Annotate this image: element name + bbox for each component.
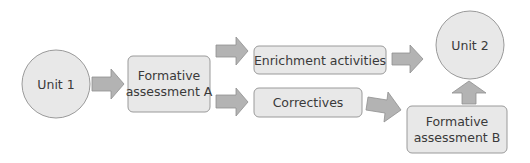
arrow-right-icon — [216, 88, 248, 116]
node-enrichment-activities: Enrichment activities — [254, 46, 386, 74]
node-correctives: Correctives — [254, 88, 362, 117]
arrow-diagonal-icon — [366, 92, 401, 122]
formative-b-line1: Formative — [426, 114, 489, 129]
unit-1-label: Unit 1 — [37, 77, 74, 92]
node-unit-1: Unit 1 — [22, 50, 90, 118]
arrow-right-icon — [216, 37, 248, 65]
node-unit-2: Unit 2 — [436, 11, 504, 79]
arrow-up-icon — [452, 81, 486, 104]
mastery-learning-diagram: Unit 1 Formative assessment A Enrichment… — [0, 0, 530, 163]
formative-a-line1: Formative — [138, 68, 201, 83]
node-formative-assessment-b: Formative assessment B — [407, 106, 507, 153]
enrichment-label: Enrichment activities — [254, 53, 386, 68]
arrow-right-icon — [92, 69, 124, 99]
arrow-right-icon — [392, 45, 423, 73]
node-formative-assessment-a: Formative assessment A — [126, 56, 213, 112]
formative-a-line2: assessment A — [126, 84, 213, 99]
formative-b-line2: assessment B — [414, 130, 501, 145]
correctives-label: Correctives — [273, 95, 344, 110]
unit-2-label: Unit 2 — [451, 38, 488, 53]
